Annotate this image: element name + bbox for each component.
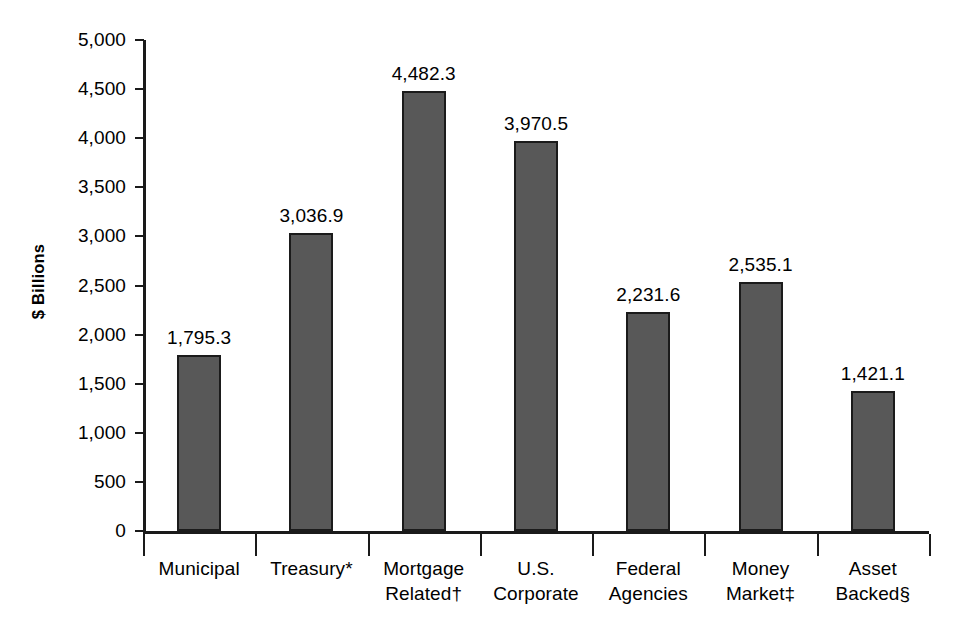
x-axis-line — [143, 531, 929, 534]
y-axis-tick-label: 1,000 — [34, 423, 126, 442]
bar-value-label: 2,535.1 — [691, 255, 831, 274]
y-axis-tick-label: 2,000 — [34, 325, 126, 344]
bar-value-label: 2,231.6 — [578, 285, 718, 304]
category-separator — [704, 534, 706, 556]
bar-value-label: 4,482.3 — [354, 64, 494, 83]
x-axis-category-label-line: Backed§ — [798, 581, 948, 606]
x-axis-category-label: AssetBacked§ — [798, 556, 948, 606]
y-axis-tick-label: 3,000 — [34, 226, 126, 245]
y-axis-tick-label: 500 — [34, 472, 126, 491]
category-separator — [143, 534, 145, 556]
y-axis-tick-label: 4,000 — [34, 128, 126, 147]
category-separator — [480, 534, 482, 556]
category-separator — [255, 534, 257, 556]
y-axis-tick-label: 1,500 — [34, 374, 126, 393]
bar — [514, 141, 558, 531]
bar — [626, 312, 670, 531]
x-axis-category-label-line: Asset — [798, 556, 948, 581]
bar — [177, 355, 221, 531]
y-axis-line — [143, 40, 146, 534]
bar-chart: $ Billions 5,0004,5004,0003,5003,0002,50… — [0, 0, 959, 617]
bar — [402, 91, 446, 531]
bar — [289, 233, 333, 531]
bar-value-label: 1,795.3 — [129, 328, 269, 347]
category-separator — [592, 534, 594, 556]
y-axis-tick-label: 3,500 — [34, 177, 126, 196]
bar-value-label: 3,970.5 — [466, 114, 606, 133]
y-axis-tick-label: 2,500 — [34, 276, 126, 295]
y-axis-tick-label: 5,000 — [34, 30, 126, 49]
bar — [739, 282, 783, 531]
y-axis-tick-label: 0 — [34, 521, 126, 540]
y-axis-tick-label: 4,500 — [34, 79, 126, 98]
category-separator — [817, 534, 819, 556]
category-separator — [929, 534, 931, 556]
category-separator — [368, 534, 370, 556]
bar-value-label: 3,036.9 — [241, 206, 381, 225]
bar — [851, 391, 895, 531]
bar-value-label: 1,421.1 — [803, 364, 943, 383]
